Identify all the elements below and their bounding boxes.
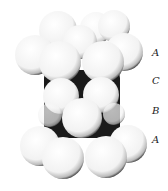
layer-label-a-top: A — [151, 47, 159, 58]
sphere-packing-diagram: A C B A — [0, 0, 168, 191]
layer-label-b: B — [151, 105, 159, 116]
layer-label-a-bottom: A — [151, 134, 159, 145]
layer-label-c: C — [152, 75, 160, 86]
